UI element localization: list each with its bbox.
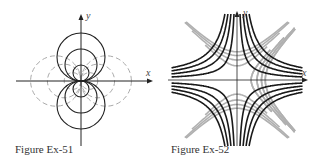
x-axis-label: x xyxy=(301,67,307,78)
y-axis-arrow-icon xyxy=(235,11,240,17)
x-axis-arrow-icon xyxy=(302,78,308,83)
figure-ex-52-caption: Figure Ex-52 xyxy=(171,143,229,155)
black-hyperbola xyxy=(243,86,302,146)
figure-ex-51: xy Figure Ex-51 xyxy=(0,0,160,161)
figure-ex-51-plot: xy xyxy=(0,0,160,161)
figure-ex-52-plot: xy xyxy=(160,0,319,161)
black-hyperbola xyxy=(172,14,228,71)
black-hyperbola xyxy=(172,86,231,146)
y-axis-label: y xyxy=(242,7,248,18)
figure-ex-52: xy Figure Ex-52 xyxy=(160,0,319,161)
figure-ex-51-caption: Figure Ex-51 xyxy=(15,143,73,155)
y-axis-arrow-icon xyxy=(79,14,84,20)
x-axis-label: x xyxy=(145,67,151,78)
black-hyperbola xyxy=(172,89,228,146)
black-hyperbola xyxy=(246,14,302,71)
black-hyperbola xyxy=(243,14,302,74)
x-axis-arrow-icon xyxy=(147,79,153,84)
y-axis-label: y xyxy=(85,10,91,21)
black-hyperbola xyxy=(172,14,231,74)
black-hyperbola xyxy=(246,89,302,146)
